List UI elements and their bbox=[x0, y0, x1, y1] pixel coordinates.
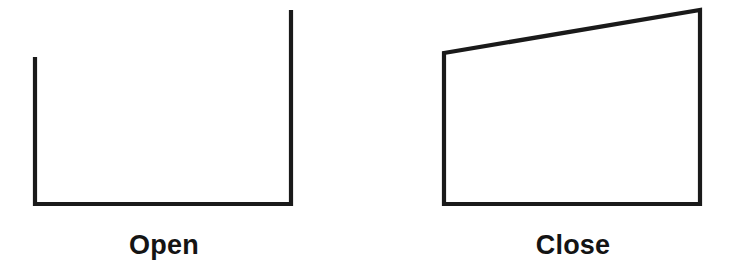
open-shape-caption: Open bbox=[35, 230, 293, 260]
close-shape-caption: Close bbox=[444, 230, 702, 260]
open-shape-polyline bbox=[35, 10, 291, 204]
close-shape-polygon bbox=[444, 10, 700, 204]
figure-canvas: Open Close bbox=[0, 0, 736, 272]
